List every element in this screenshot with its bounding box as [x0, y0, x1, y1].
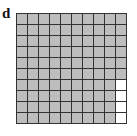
- grid-cell-shaded: [17, 47, 28, 58]
- grid-cell-shaded: [105, 80, 116, 91]
- grid-cell-shaded: [116, 69, 127, 80]
- grid-cell-shaded: [105, 58, 116, 69]
- grid-cell-shaded: [39, 14, 50, 25]
- grid-cell-shaded: [17, 91, 28, 102]
- grid-cell-unshaded: [116, 91, 127, 102]
- grid-cell-shaded: [17, 36, 28, 47]
- grid-cell-shaded: [72, 113, 83, 124]
- grid-cell-shaded: [94, 47, 105, 58]
- grid-cell-shaded: [72, 36, 83, 47]
- grid-cell-shaded: [39, 47, 50, 58]
- hundred-grid: [16, 13, 127, 124]
- grid-cell-shaded: [39, 80, 50, 91]
- grid-cell-shaded: [61, 47, 72, 58]
- grid-cell-shaded: [28, 14, 39, 25]
- grid-cell-shaded: [105, 113, 116, 124]
- grid-cell-shaded: [94, 91, 105, 102]
- grid-cell-shaded: [94, 69, 105, 80]
- grid-cell-shaded: [72, 102, 83, 113]
- grid-cell-shaded: [50, 25, 61, 36]
- grid-cell-shaded: [94, 36, 105, 47]
- grid-cell-shaded: [83, 69, 94, 80]
- grid-cell-shaded: [72, 80, 83, 91]
- grid-cell-shaded: [105, 14, 116, 25]
- grid-cell-shaded: [116, 14, 127, 25]
- grid-cell-shaded: [94, 14, 105, 25]
- grid-cell-shaded: [94, 25, 105, 36]
- grid-cell-shaded: [72, 47, 83, 58]
- grid-cell-shaded: [39, 36, 50, 47]
- grid-cell-unshaded: [116, 113, 127, 124]
- grid-cell-shaded: [105, 25, 116, 36]
- grid-cell-shaded: [72, 25, 83, 36]
- grid-cell-shaded: [116, 58, 127, 69]
- panel-label: d: [2, 6, 10, 21]
- grid-cell-shaded: [61, 58, 72, 69]
- grid-cell-shaded: [50, 47, 61, 58]
- grid-cell-shaded: [28, 69, 39, 80]
- grid-cell-shaded: [61, 25, 72, 36]
- grid-cell-shaded: [50, 91, 61, 102]
- grid-cell-shaded: [28, 80, 39, 91]
- grid-cell-shaded: [94, 102, 105, 113]
- grid-cell-shaded: [83, 91, 94, 102]
- grid-cell-shaded: [61, 80, 72, 91]
- grid-cell-shaded: [94, 113, 105, 124]
- grid-cell-shaded: [50, 58, 61, 69]
- grid-cell-shaded: [50, 102, 61, 113]
- grid-cell-shaded: [83, 113, 94, 124]
- grid-cell-shaded: [17, 14, 28, 25]
- grid-cell-shaded: [50, 80, 61, 91]
- grid-cell-shaded: [116, 36, 127, 47]
- grid-cell-shaded: [116, 47, 127, 58]
- grid-cell-shaded: [116, 25, 127, 36]
- grid-cell-shaded: [83, 25, 94, 36]
- grid-cell-shaded: [72, 14, 83, 25]
- grid-cell-unshaded: [116, 102, 127, 113]
- grid-cell-shaded: [28, 58, 39, 69]
- grid-cell-shaded: [61, 91, 72, 102]
- grid-cell-shaded: [61, 113, 72, 124]
- grid-cell-shaded: [39, 25, 50, 36]
- grid-cell-shaded: [83, 14, 94, 25]
- grid-cell-shaded: [83, 36, 94, 47]
- grid-cell-shaded: [83, 47, 94, 58]
- grid-cell-shaded: [83, 102, 94, 113]
- grid-cell-shaded: [50, 14, 61, 25]
- grid-cell-shaded: [61, 102, 72, 113]
- grid-cell-shaded: [61, 14, 72, 25]
- grid-cell-shaded: [17, 58, 28, 69]
- grid-cell-shaded: [39, 113, 50, 124]
- grid-cell-shaded: [17, 113, 28, 124]
- grid-cell-shaded: [17, 102, 28, 113]
- grid-cell-shaded: [105, 69, 116, 80]
- grid-cell-shaded: [105, 47, 116, 58]
- grid-cell-shaded: [39, 91, 50, 102]
- grid-cell-shaded: [50, 36, 61, 47]
- grid-cell-shaded: [83, 58, 94, 69]
- grid-cell-unshaded: [116, 80, 127, 91]
- grid-cell-shaded: [94, 58, 105, 69]
- grid-cell-shaded: [28, 25, 39, 36]
- grid-cell-shaded: [105, 102, 116, 113]
- grid-cell-shaded: [50, 113, 61, 124]
- grid-cell-shaded: [17, 25, 28, 36]
- grid-cell-shaded: [105, 36, 116, 47]
- grid-cell-shaded: [72, 91, 83, 102]
- grid-cell-shaded: [17, 80, 28, 91]
- grid-cell-shaded: [28, 91, 39, 102]
- grid-cell-shaded: [83, 80, 94, 91]
- grid-cell-shaded: [39, 102, 50, 113]
- grid-cell-shaded: [72, 69, 83, 80]
- grid-cell-shaded: [39, 58, 50, 69]
- grid-cell-shaded: [61, 36, 72, 47]
- grid-cell-shaded: [17, 69, 28, 80]
- grid-cell-shaded: [50, 69, 61, 80]
- grid-cell-shaded: [28, 47, 39, 58]
- grid-cell-shaded: [61, 69, 72, 80]
- grid-cell-shaded: [72, 58, 83, 69]
- grid-cell-shaded: [105, 91, 116, 102]
- grid-cell-shaded: [28, 36, 39, 47]
- grid-cell-shaded: [28, 113, 39, 124]
- grid-cell-shaded: [94, 80, 105, 91]
